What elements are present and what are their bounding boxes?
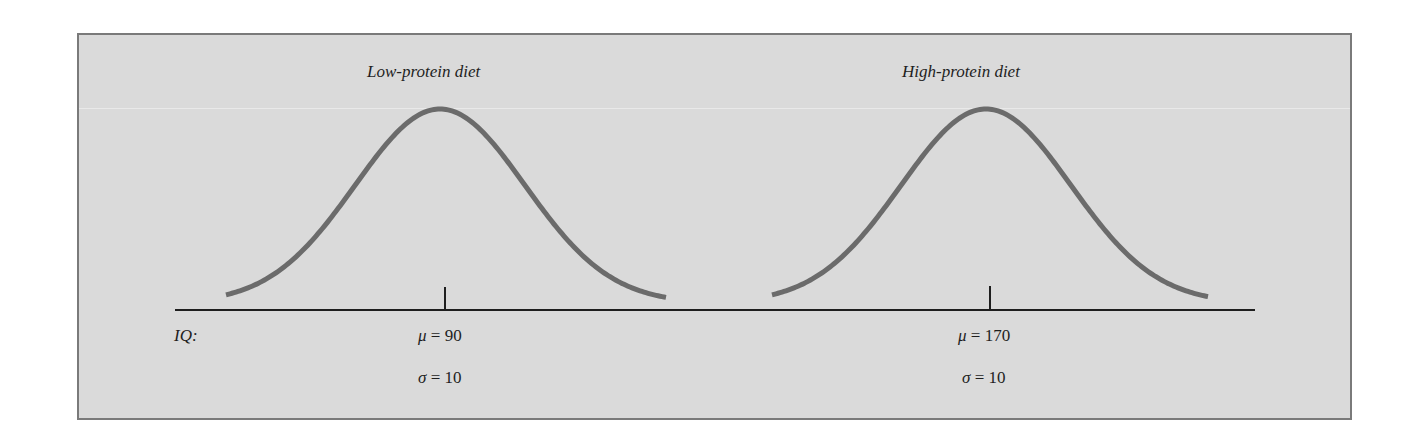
mu-symbol: μ <box>418 326 427 345</box>
normal-curve-low-protein <box>226 109 666 297</box>
mu-value: = 90 <box>431 326 462 345</box>
distribution-plot <box>0 0 1425 444</box>
normal-curve-high-protein <box>772 109 1208 297</box>
sd-label-low-protein: σ = 10 <box>418 368 461 388</box>
sigma-symbol: σ <box>418 368 426 387</box>
axis-label-iq: IQ: <box>174 326 198 346</box>
sigma-symbol: σ <box>962 368 970 387</box>
mu-symbol: μ <box>958 326 967 345</box>
sd-label-high-protein: σ = 10 <box>962 368 1005 388</box>
mean-label-high-protein: μ = 170 <box>958 326 1010 346</box>
mean-label-low-protein: μ = 90 <box>418 326 462 346</box>
heading-high-protein: High-protein diet <box>902 62 1020 82</box>
sigma-value: = 10 <box>431 368 462 387</box>
heading-low-protein: Low-protein diet <box>367 62 480 82</box>
sigma-value: = 10 <box>975 368 1006 387</box>
mu-value: = 170 <box>971 326 1010 345</box>
